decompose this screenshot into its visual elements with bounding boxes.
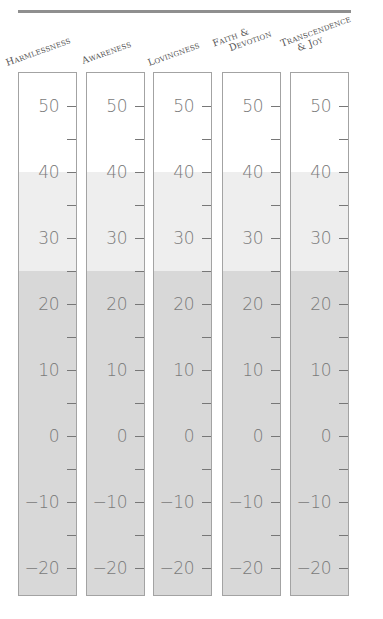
minor-tick bbox=[67, 337, 76, 338]
column-label: Transcendence& Joy bbox=[279, 14, 355, 58]
tick-label: 20 bbox=[173, 296, 194, 313]
minor-tick bbox=[202, 535, 211, 536]
scale-column: 50403020100−10−20 bbox=[290, 72, 349, 596]
major-tick bbox=[339, 370, 348, 371]
tick-label: −20 bbox=[229, 560, 263, 577]
column-label: Awareness bbox=[81, 39, 133, 66]
major-tick bbox=[202, 106, 211, 107]
tick-label: 20 bbox=[106, 296, 127, 313]
tick-label: −20 bbox=[297, 560, 331, 577]
light-band bbox=[223, 172, 280, 271]
minor-tick bbox=[339, 337, 348, 338]
minor-tick bbox=[67, 205, 76, 206]
major-tick bbox=[67, 436, 76, 437]
minor-tick bbox=[202, 469, 211, 470]
major-tick bbox=[67, 502, 76, 503]
tick-label: 10 bbox=[310, 362, 331, 379]
minor-tick bbox=[271, 271, 280, 272]
tick-label: 0 bbox=[117, 428, 127, 445]
tick-label: 30 bbox=[310, 230, 331, 247]
tick-label: 40 bbox=[242, 164, 263, 181]
tick-label: 20 bbox=[38, 296, 59, 313]
scale-column: 50403020100−10−20 bbox=[18, 72, 77, 596]
major-tick bbox=[135, 304, 144, 305]
major-tick bbox=[135, 436, 144, 437]
minor-tick bbox=[271, 205, 280, 206]
minor-tick bbox=[135, 205, 144, 206]
minor-tick bbox=[339, 139, 348, 140]
dark-band bbox=[223, 271, 280, 595]
scale-column: 50403020100−10−20 bbox=[153, 72, 212, 596]
tick-label: 40 bbox=[38, 164, 59, 181]
minor-tick bbox=[271, 337, 280, 338]
major-tick bbox=[339, 238, 348, 239]
column-label-line1: Lovingness bbox=[146, 39, 201, 68]
tick-label: 0 bbox=[321, 428, 331, 445]
tick-label: −20 bbox=[93, 560, 127, 577]
dark-band bbox=[19, 271, 76, 595]
tick-label: 40 bbox=[310, 164, 331, 181]
tick-label: −10 bbox=[25, 494, 59, 511]
minor-tick bbox=[67, 271, 76, 272]
tick-label: 0 bbox=[184, 428, 194, 445]
top-rule bbox=[18, 10, 351, 13]
tick-label: 10 bbox=[38, 362, 59, 379]
tick-label: 0 bbox=[253, 428, 263, 445]
tick-label: 40 bbox=[173, 164, 194, 181]
minor-tick bbox=[339, 403, 348, 404]
major-tick bbox=[202, 436, 211, 437]
minor-tick bbox=[135, 535, 144, 536]
major-tick bbox=[271, 502, 280, 503]
major-tick bbox=[271, 106, 280, 107]
major-tick bbox=[135, 238, 144, 239]
minor-tick bbox=[67, 535, 76, 536]
column-label-line1: Harmlessness bbox=[4, 34, 72, 68]
major-tick bbox=[271, 238, 280, 239]
tick-label: −10 bbox=[160, 494, 194, 511]
minor-tick bbox=[67, 469, 76, 470]
major-tick bbox=[271, 172, 280, 173]
minor-tick bbox=[339, 205, 348, 206]
minor-tick bbox=[135, 337, 144, 338]
major-tick bbox=[339, 436, 348, 437]
major-tick bbox=[202, 238, 211, 239]
tick-label: 50 bbox=[242, 98, 263, 115]
major-tick bbox=[339, 304, 348, 305]
major-tick bbox=[202, 304, 211, 305]
tick-label: 10 bbox=[242, 362, 263, 379]
minor-tick bbox=[135, 403, 144, 404]
minor-tick bbox=[271, 403, 280, 404]
scale-column: 50403020100−10−20 bbox=[222, 72, 281, 596]
light-band bbox=[291, 172, 348, 271]
column-label: Faith &Devotion bbox=[211, 19, 273, 58]
minor-tick bbox=[135, 271, 144, 272]
column-label: Harmlessness bbox=[5, 35, 72, 68]
tick-label: −10 bbox=[297, 494, 331, 511]
tick-label: −20 bbox=[25, 560, 59, 577]
light-band bbox=[154, 172, 211, 271]
minor-tick bbox=[135, 469, 144, 470]
major-tick bbox=[271, 370, 280, 371]
major-tick bbox=[67, 568, 76, 569]
major-tick bbox=[135, 568, 144, 569]
tick-label: 30 bbox=[38, 230, 59, 247]
major-tick bbox=[67, 172, 76, 173]
major-tick bbox=[339, 106, 348, 107]
dark-band bbox=[154, 271, 211, 595]
dark-band bbox=[87, 271, 144, 595]
major-tick bbox=[339, 172, 348, 173]
major-tick bbox=[67, 238, 76, 239]
minor-tick bbox=[339, 469, 348, 470]
major-tick bbox=[67, 370, 76, 371]
minor-tick bbox=[202, 403, 211, 404]
minor-tick bbox=[202, 205, 211, 206]
column-label: Lovingness bbox=[147, 40, 201, 68]
major-tick bbox=[202, 568, 211, 569]
minor-tick bbox=[202, 271, 211, 272]
major-tick bbox=[202, 370, 211, 371]
column-label-line1: Awareness bbox=[80, 38, 132, 66]
tick-label: 30 bbox=[242, 230, 263, 247]
tick-label: 30 bbox=[173, 230, 194, 247]
tick-label: 40 bbox=[106, 164, 127, 181]
minor-tick bbox=[67, 403, 76, 404]
